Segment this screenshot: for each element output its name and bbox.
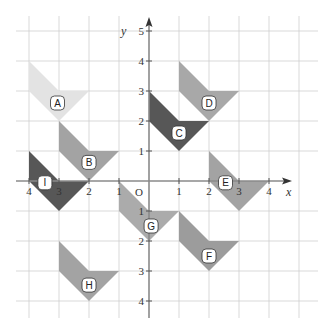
svg-text:E: E bbox=[222, 177, 229, 188]
svg-text:F: F bbox=[206, 251, 212, 262]
svg-text:A: A bbox=[54, 98, 61, 109]
x-tick-label: 1 bbox=[116, 185, 122, 197]
y-tick-label: 2 bbox=[139, 235, 145, 247]
shape-label-c: C bbox=[172, 126, 186, 140]
svg-text:B: B bbox=[86, 157, 93, 168]
svg-text:I: I bbox=[44, 177, 47, 188]
y-tick-label: 3 bbox=[139, 265, 145, 277]
shape-label-d: D bbox=[202, 96, 216, 110]
shape-label-b: B bbox=[82, 155, 96, 169]
x-tick-label: 2 bbox=[86, 185, 92, 197]
y-tick-label: 5 bbox=[139, 25, 145, 37]
x-tick-label: 3 bbox=[56, 185, 62, 197]
y-tick-label: 4 bbox=[139, 55, 145, 67]
y-tick-label: 1 bbox=[139, 145, 145, 157]
svg-text:C: C bbox=[175, 128, 182, 139]
x-tick-label: 2 bbox=[206, 185, 212, 197]
x-tick-label: 1 bbox=[176, 185, 182, 197]
y-axis-label: y bbox=[120, 24, 127, 38]
shape-label-i: I bbox=[38, 176, 52, 190]
origin-label: O bbox=[135, 186, 143, 198]
axes: 43211234432112345 bbox=[16, 17, 292, 318]
svg-text:G: G bbox=[147, 221, 155, 232]
y-tick-label: 4 bbox=[139, 295, 145, 307]
x-tick-label: 4 bbox=[26, 185, 32, 197]
shape-label-f: F bbox=[202, 249, 216, 263]
shape-label-h: H bbox=[82, 278, 96, 292]
shape-label-a: A bbox=[51, 96, 65, 110]
x-axis-label: x bbox=[285, 185, 292, 199]
coordinate-grid-diagram: 43211234432112345 ABCDEFGHI x y O bbox=[0, 0, 328, 326]
x-tick-label: 3 bbox=[236, 185, 242, 197]
y-tick-label: 2 bbox=[139, 115, 145, 127]
shape-label-g: G bbox=[144, 219, 158, 233]
shape-label-e: E bbox=[219, 176, 233, 190]
x-tick-label: 4 bbox=[266, 185, 272, 197]
y-tick-label: 1 bbox=[139, 205, 145, 217]
y-tick-label: 3 bbox=[139, 85, 145, 97]
svg-text:H: H bbox=[85, 280, 92, 291]
svg-text:D: D bbox=[205, 98, 212, 109]
